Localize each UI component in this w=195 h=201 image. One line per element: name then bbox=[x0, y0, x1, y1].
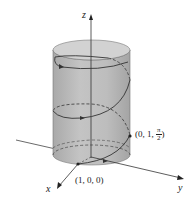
point-1-0-0 bbox=[76, 162, 79, 165]
y-axis-label: y bbox=[178, 182, 182, 193]
y-axis bbox=[91, 157, 181, 178]
helix-cylinder-diagram bbox=[0, 0, 195, 201]
z-axis-label: z bbox=[82, 9, 86, 20]
point-0-1-pi-over-2 bbox=[128, 134, 131, 137]
y-axis-arrow-icon bbox=[177, 175, 184, 180]
x-axis-label: x bbox=[46, 183, 50, 194]
point-label-prefix: (0, 1, bbox=[135, 129, 156, 139]
point-label-1-0-0: (1, 0, 0) bbox=[75, 175, 104, 185]
point-label-0-1-pi-over-2: (0, 1, π2) bbox=[135, 127, 165, 142]
cylinder-top bbox=[53, 40, 130, 60]
z-axis-arrow-icon bbox=[89, 14, 93, 20]
point-label-suffix: ) bbox=[162, 129, 165, 139]
